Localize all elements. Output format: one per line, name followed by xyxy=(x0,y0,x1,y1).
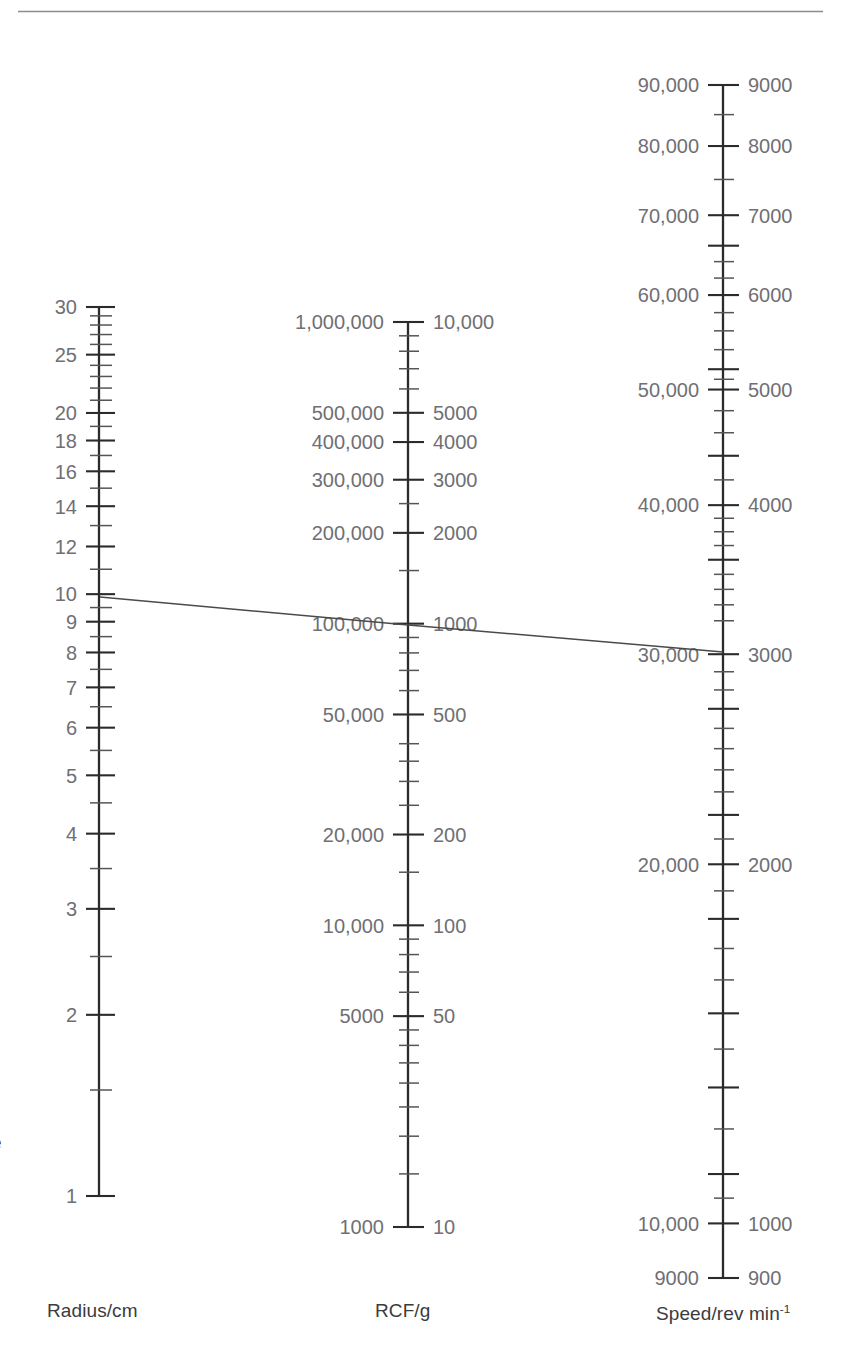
tick-label-radius-7-left: 7 xyxy=(66,677,77,699)
axis-caption-speed: Speed/rev min-1 xyxy=(656,1303,790,1325)
tick-label-speed-900-right: 900 xyxy=(748,1267,781,1289)
tick-label-radius-5-left: 5 xyxy=(66,765,77,787)
tick-label-speed-3000-right: 3000 xyxy=(748,644,793,666)
tick-label-rcf-100000-left: 100,000 xyxy=(312,613,384,635)
tick-label-rcf-5000-right: 50 xyxy=(433,1005,455,1027)
tick-label-radius-12-left: 12 xyxy=(55,536,77,558)
tick-label-radius-2-left: 2 xyxy=(66,1004,77,1026)
tick-label-rcf-1000-left: 1000 xyxy=(340,1216,385,1238)
tick-label-rcf-1000000-right: 10,000 xyxy=(433,311,494,333)
isopleth-segment-1 xyxy=(408,625,723,652)
tick-label-radius-14-left: 14 xyxy=(55,496,77,518)
tick-label-speed-7000-right: 7000 xyxy=(748,205,793,227)
tick-label-rcf-400000-left: 400,000 xyxy=(312,431,384,453)
tick-label-rcf-500000-left: 500,000 xyxy=(312,402,384,424)
tick-labels-group: 30252018161412109876543211,000,00010,000… xyxy=(55,74,793,1289)
axis-caption-speed-exponent: -1 xyxy=(780,1302,791,1315)
tick-label-rcf-200000-left: 200,000 xyxy=(312,522,384,544)
tick-label-radius-25-left: 25 xyxy=(55,344,77,366)
tick-label-rcf-1000-right: 10 xyxy=(433,1216,455,1238)
nomogram-figure: 30252018161412109876543211,000,00010,000… xyxy=(0,0,841,1371)
tick-label-speed-900-left: 9000 xyxy=(655,1267,700,1289)
nomogram-canvas: 30252018161412109876543211,000,00010,000… xyxy=(0,0,841,1371)
tick-label-radius-20-left: 20 xyxy=(55,402,77,424)
tick-label-speed-9000-right: 9000 xyxy=(748,74,793,96)
tick-label-radius-16-left: 16 xyxy=(55,461,77,483)
tick-label-rcf-300000-right: 3000 xyxy=(433,469,478,491)
tick-label-rcf-50000-right: 500 xyxy=(433,704,466,726)
tick-label-rcf-1000000-left: 1,000,000 xyxy=(295,311,384,333)
tick-label-speed-8000-right: 8000 xyxy=(748,135,793,157)
tick-label-rcf-300000-left: 300,000 xyxy=(312,469,384,491)
tick-label-speed-5000-right: 5000 xyxy=(748,379,793,401)
tick-label-rcf-100000-right: 1000 xyxy=(433,613,478,635)
tick-label-radius-9-left: 9 xyxy=(66,611,77,633)
tick-label-speed-6000-right: 6000 xyxy=(748,284,793,306)
tick-label-speed-5000-left: 50,000 xyxy=(638,379,699,401)
tick-label-rcf-20000-left: 20,000 xyxy=(323,824,384,846)
tick-label-radius-1-left: 1 xyxy=(66,1185,77,1207)
axis-caption-speed-text: Speed/rev min xyxy=(656,1303,780,1324)
tick-label-radius-4-left: 4 xyxy=(66,823,77,845)
ticks-group xyxy=(86,85,739,1278)
tick-label-speed-4000-right: 4000 xyxy=(748,494,793,516)
axes-group xyxy=(99,85,723,1278)
tick-label-rcf-500000-right: 5000 xyxy=(433,402,478,424)
tick-label-speed-9000-left: 90,000 xyxy=(638,74,699,96)
tick-label-speed-1000-left: 10,000 xyxy=(638,1213,699,1235)
tick-label-rcf-50000-left: 50,000 xyxy=(323,704,384,726)
clipped-left-text: e xyxy=(0,1132,2,1154)
axis-caption-radius: Radius/cm xyxy=(47,1300,138,1322)
tick-label-speed-8000-left: 80,000 xyxy=(638,135,699,157)
tick-label-radius-6-left: 6 xyxy=(66,717,77,739)
isopleth-segment-0 xyxy=(100,597,408,625)
tick-label-speed-2000-right: 2000 xyxy=(748,854,793,876)
tick-label-speed-4000-left: 40,000 xyxy=(638,494,699,516)
tick-label-radius-30-left: 30 xyxy=(55,296,77,318)
tick-label-speed-2000-left: 20,000 xyxy=(638,854,699,876)
tick-label-rcf-200000-right: 2000 xyxy=(433,522,478,544)
tick-label-rcf-20000-right: 200 xyxy=(433,824,466,846)
tick-label-radius-8-left: 8 xyxy=(66,642,77,664)
tick-label-speed-7000-left: 70,000 xyxy=(638,205,699,227)
tick-label-rcf-5000-left: 5000 xyxy=(340,1005,385,1027)
tick-label-rcf-10000-right: 100 xyxy=(433,915,466,937)
tick-label-rcf-10000-left: 10,000 xyxy=(323,915,384,937)
tick-label-radius-18-left: 18 xyxy=(55,430,77,452)
tick-label-radius-10-left: 10 xyxy=(55,583,77,605)
tick-label-speed-1000-right: 1000 xyxy=(748,1213,793,1235)
axis-caption-rcf: RCF/g xyxy=(375,1300,430,1322)
tick-label-rcf-400000-right: 4000 xyxy=(433,431,478,453)
tick-label-speed-6000-left: 60,000 xyxy=(638,284,699,306)
tick-label-radius-3-left: 3 xyxy=(66,898,77,920)
